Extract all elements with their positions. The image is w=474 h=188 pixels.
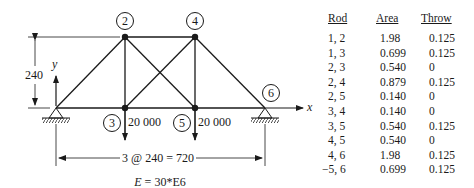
area-cell: 0.699 — [380, 163, 406, 175]
support-hatch-left — [42, 118, 70, 123]
rod-cell: 3, 4 — [328, 105, 345, 117]
throw-cell: 0 — [429, 61, 435, 73]
span-dimension-label: 3 @ 240 = 720 — [122, 151, 194, 165]
area-cell: 0.140 — [380, 105, 406, 117]
member-4-6 — [195, 37, 265, 108]
throw-cell: 0.125 — [429, 32, 455, 44]
joint-2-label: 2 — [122, 14, 128, 28]
joint-3-label: 3 — [109, 116, 115, 130]
modulus-label: E = 30*E6 — [133, 175, 185, 188]
area-cell: 1.98 — [380, 149, 400, 161]
throw-cell: 0.125 — [429, 163, 455, 175]
area-cell: 0.540 — [380, 134, 406, 146]
pin-support-left — [42, 108, 70, 123]
support-triangle-right — [258, 108, 272, 118]
pin-support-right — [251, 108, 279, 123]
throw-cell: 0.125 — [429, 120, 455, 132]
throw-cell: 0 — [429, 90, 435, 102]
y-axis-label: y — [51, 57, 58, 71]
rod-cell: 3, 5 — [328, 120, 345, 132]
x-axis-label: x — [306, 100, 313, 114]
throw-cell: 0.125 — [429, 47, 455, 59]
rod-cell: 4, 5 — [328, 134, 345, 146]
rod-cell: −5, 6 — [322, 163, 346, 175]
support-hatch-right — [251, 118, 279, 123]
rod-cell: 2, 5 — [328, 90, 345, 102]
area-cell: 0.699 — [380, 47, 406, 59]
rod-cell: 4, 6 — [328, 149, 345, 161]
rod-cell: 2, 4 — [328, 76, 345, 88]
height-dimension-label: 240 — [25, 68, 43, 82]
member-1-2 — [56, 37, 125, 108]
area-cell: 1.98 — [380, 32, 400, 44]
throw-cell: 0.125 — [429, 76, 455, 88]
load-value-joint-5: 20 000 — [198, 115, 231, 129]
area-cell: 0.140 — [380, 90, 406, 102]
truss-diagram: 2 4 3 5 6 20 000 20 000 x y 240 — [0, 0, 320, 188]
joint-2-dot — [122, 34, 128, 40]
header-rod: Rod — [328, 12, 347, 24]
area-cell: 0.879 — [380, 76, 406, 88]
throw-cell: 0 — [429, 105, 435, 117]
truss-members — [56, 37, 265, 108]
rod-cell: 1, 2 — [328, 32, 345, 44]
joint-4-label: 4 — [192, 14, 198, 28]
support-triangle-left — [49, 108, 63, 118]
throw-cell: 0 — [429, 134, 435, 146]
load-value-joint-3: 20 000 — [128, 115, 161, 129]
joint-5-label: 5 — [179, 116, 185, 130]
header-throw: Throw — [421, 12, 452, 24]
rod-cell: 1, 3 — [328, 47, 345, 59]
header-area: Area — [376, 12, 398, 24]
joint-4-dot — [192, 34, 198, 40]
rod-cell: 2, 3 — [328, 61, 345, 73]
area-cell: 0.540 — [380, 61, 406, 73]
throw-cell: 0.125 — [429, 149, 455, 161]
joint-6-label: 6 — [268, 86, 274, 100]
area-cell: 0.540 — [380, 120, 406, 132]
